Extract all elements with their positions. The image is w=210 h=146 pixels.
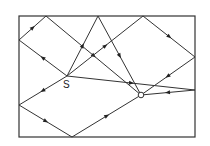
reflection-diagram: S — [0, 0, 210, 146]
arrow-icon — [40, 88, 45, 92]
arrow-icon — [166, 73, 171, 78]
arrow-icon — [104, 114, 109, 118]
ray-paths — [19, 16, 195, 137]
arrow-icon — [43, 118, 48, 122]
arrow-icon — [117, 53, 121, 58]
observer-point — [138, 92, 144, 98]
source-label: S — [63, 79, 70, 90]
